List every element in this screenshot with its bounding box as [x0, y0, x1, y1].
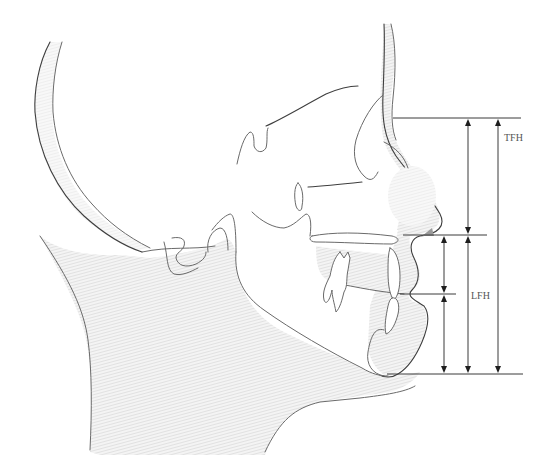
arrow-up-icon	[441, 236, 447, 243]
arrow-down-icon	[495, 366, 501, 373]
cranium-outline	[34, 42, 215, 252]
neck-fade	[0, 400, 300, 470]
arrow-up-icon	[465, 236, 471, 243]
arrow-up-icon	[441, 295, 447, 302]
arrow-down-icon	[465, 366, 471, 373]
measurement-arrows	[441, 119, 501, 373]
arrow-down-icon	[465, 227, 471, 234]
arrow-up-icon	[495, 119, 501, 126]
upper-face-arrow	[465, 119, 471, 234]
arrow-down-icon	[441, 366, 447, 373]
tfh-arrow	[495, 119, 501, 373]
arrow-down-icon	[441, 286, 447, 293]
lower-lip-chin-arrow	[441, 295, 447, 373]
arrow-up-icon	[465, 119, 471, 126]
tfh-label: TFH	[504, 132, 523, 143]
cheek-shading	[388, 166, 436, 226]
lfh-arrow	[465, 236, 471, 373]
lfh-label: LFH	[471, 290, 490, 301]
upper-lip-arrow	[441, 236, 447, 293]
cephalometric-diagram: TFH LFH	[0, 0, 556, 470]
